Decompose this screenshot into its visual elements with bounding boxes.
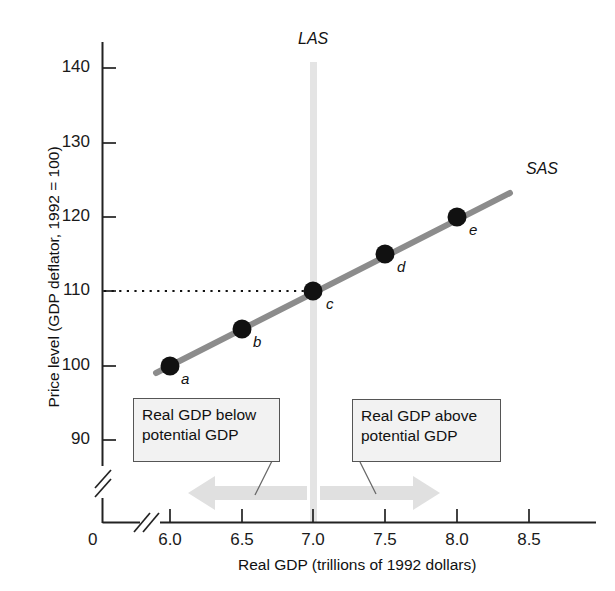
x-tick-label-7-5: 7.5: [357, 530, 413, 550]
data-point-label-c: c: [326, 295, 334, 312]
x-axis-title: Real GDP (trillions of 1992 dollars): [238, 556, 476, 574]
y-axis-title: Price level (GDP deflator, 1992 = 100): [45, 127, 63, 427]
callout-below-line2: potential GDP: [142, 425, 272, 445]
x-tick-label-6-5: 6.5: [214, 530, 270, 550]
x-tick-label-6-0: 6.0: [142, 530, 198, 550]
data-point-d: [376, 245, 395, 264]
y-tick-label-140: 140: [44, 57, 90, 77]
data-point-e: [448, 208, 467, 227]
sas-curve-label: SAS: [526, 160, 558, 178]
y-axis-break-icon: [95, 470, 111, 497]
data-point-label-b: b: [253, 333, 261, 350]
data-point-label-d: d: [397, 258, 405, 275]
las-curve-label: LAS: [298, 30, 328, 48]
y-tick-label-90: 90: [44, 429, 90, 449]
x-axis-ticks: [170, 509, 529, 523]
data-point-label-a: a: [181, 370, 189, 387]
data-point-a: [161, 357, 180, 376]
callout-above-line2: potential GDP: [361, 426, 493, 446]
data-point-label-e: e: [469, 221, 477, 238]
callout-real-gdp-above-potential: Real GDP above potential GDP: [352, 399, 501, 462]
x-tick-label-7-0: 7.0: [285, 530, 341, 550]
supply-curve-chart: 140 130 120 110 100 90 0 6.0 6.5 7.0 7.5…: [0, 0, 615, 591]
callout-real-gdp-below-potential: Real GDP below potential GDP: [133, 398, 280, 462]
above-potential-arrow: [320, 476, 440, 510]
below-potential-arrow: [188, 476, 307, 510]
callout-above-line1: Real GDP above: [361, 406, 493, 426]
chart-canvas: [0, 0, 615, 591]
y-axis-ticks: [103, 68, 117, 440]
data-point-c: [304, 282, 323, 301]
x-tick-label-8-5: 8.5: [501, 530, 557, 550]
origin-label: 0: [88, 530, 97, 550]
x-tick-label-8-0: 8.0: [429, 530, 485, 550]
data-point-b: [233, 320, 252, 339]
callout-below-line1: Real GDP below: [142, 405, 272, 425]
